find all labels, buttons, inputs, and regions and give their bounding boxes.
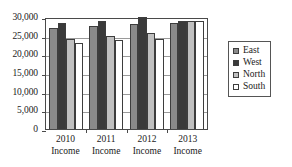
bar-south — [115, 40, 124, 129]
y-axis-tick-label: 10,000 — [12, 88, 38, 98]
bar-west — [178, 21, 187, 129]
x-axis-category-label: 2010Income — [45, 134, 86, 157]
bar-south — [75, 43, 84, 129]
bar-north — [66, 39, 75, 129]
legend-item-south[interactable]: South — [233, 81, 265, 93]
x-axis-category-line: Income — [127, 146, 168, 158]
bar-chart: 05,00010,00015,00020,00025,00030,000 201… — [0, 0, 292, 167]
legend-swatch-north-icon — [233, 72, 239, 78]
bar-south — [155, 39, 164, 129]
bar-groups — [46, 19, 207, 129]
x-axis-category-line: Income — [45, 146, 86, 158]
y-axis-tick-label: 15,000 — [12, 69, 38, 79]
y-axis-tick-label: 30,000 — [12, 13, 38, 23]
x-axis-category-line: Income — [86, 146, 127, 158]
bar-north — [187, 21, 196, 129]
legend-swatch-west-icon — [233, 60, 239, 66]
bar-west — [138, 17, 147, 129]
bar-east — [130, 24, 139, 129]
y-axis-labels: 05,00010,00015,00020,00025,00030,000 — [0, 12, 40, 130]
x-axis-category-line: 2011 — [86, 134, 127, 146]
x-axis-category-label: 2012Income — [127, 134, 168, 157]
bar-group — [46, 19, 86, 129]
x-axis-category-line: Income — [167, 146, 208, 158]
legend-label: South — [243, 82, 265, 92]
y-axis-tick-label: 0 — [33, 125, 38, 135]
legend-label: West — [243, 58, 262, 68]
x-axis-category-label: 2011Income — [86, 134, 127, 157]
bar-west — [98, 21, 107, 129]
chart-legend: EastWestNorthSouth — [228, 41, 271, 97]
y-axis-tick — [42, 131, 46, 132]
legend-item-west[interactable]: West — [233, 57, 265, 69]
legend-item-north[interactable]: North — [233, 69, 265, 81]
bar-east — [170, 23, 179, 129]
bar-west — [58, 23, 67, 129]
x-axis-category-line: 2010 — [45, 134, 86, 146]
y-axis-tick-label: 25,000 — [12, 32, 38, 42]
x-axis-category-line: 2012 — [127, 134, 168, 146]
bar-north — [147, 33, 156, 129]
bar-east — [89, 26, 98, 129]
bar-group — [86, 19, 126, 129]
legend-swatch-east-icon — [233, 48, 239, 54]
x-axis-labels: 2010Income2011Income2012Income2013Income — [45, 134, 208, 157]
bar-north — [106, 36, 115, 129]
legend-label: East — [243, 46, 259, 56]
x-axis-category-line: 2013 — [167, 134, 208, 146]
bar-group — [127, 19, 167, 129]
plot-area — [45, 18, 208, 130]
legend-swatch-south-icon — [233, 84, 239, 90]
y-axis-tick-label: 20,000 — [12, 51, 38, 61]
bar-south — [195, 21, 204, 129]
bar-east — [49, 28, 58, 129]
x-axis-category-label: 2013Income — [167, 134, 208, 157]
y-axis-tick-label: 5,000 — [17, 107, 38, 117]
bar-group — [167, 19, 207, 129]
legend-item-east[interactable]: East — [233, 45, 265, 57]
legend-label: North — [243, 70, 265, 80]
x-axis-tick — [167, 129, 168, 133]
x-axis-tick — [127, 129, 128, 133]
x-axis-tick — [86, 129, 87, 133]
